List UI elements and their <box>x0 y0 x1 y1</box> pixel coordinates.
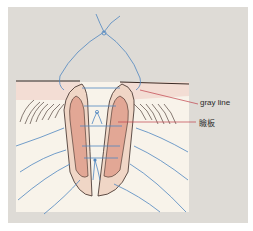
diagram-frame: gray line 瞼板 <box>0 0 253 231</box>
eyelid-suture-diagram <box>0 0 253 231</box>
label-gray-line: gray line <box>200 98 230 107</box>
knot-bottom <box>93 158 96 161</box>
label-tarsus: 瞼板 <box>199 117 215 128</box>
